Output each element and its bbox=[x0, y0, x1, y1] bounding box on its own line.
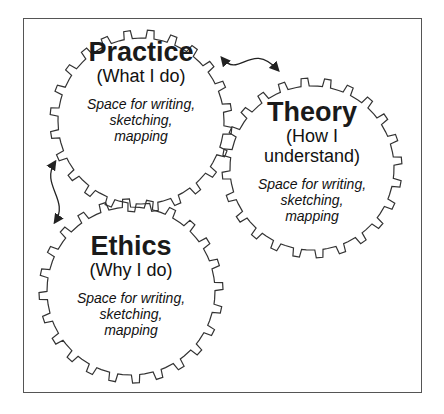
note-line: sketching, bbox=[87, 112, 195, 128]
subtitle-line: (Why I do) bbox=[77, 260, 185, 280]
note-line: sketching, bbox=[77, 306, 185, 322]
subtitle-line: (How I bbox=[258, 126, 366, 146]
gear-label-practice: Practice (What I do) Space for writing, … bbox=[87, 38, 195, 144]
gear-title: Theory bbox=[258, 98, 366, 126]
note-line: sketching, bbox=[258, 192, 366, 208]
gear-title: Practice bbox=[87, 38, 195, 66]
gear-subtitle: (Why I do) bbox=[77, 260, 185, 280]
gear-note: Space for writing, sketching, mapping bbox=[77, 290, 185, 338]
double-arrow-practice-ethics-icon bbox=[51, 162, 60, 222]
gear-title: Ethics bbox=[77, 232, 185, 260]
gear-note: Space for writing, sketching, mapping bbox=[87, 96, 195, 144]
gear-note: Space for writing, sketching, mapping bbox=[258, 176, 366, 224]
note-line: Space for writing, bbox=[258, 176, 366, 192]
gear-label-theory: Theory (How I understand) Space for writ… bbox=[258, 98, 366, 224]
subtitle-line: (What I do) bbox=[87, 66, 195, 86]
gear-subtitle: (What I do) bbox=[87, 66, 195, 86]
gears-diagram bbox=[0, 0, 444, 414]
note-line: Space for writing, bbox=[87, 96, 195, 112]
gear-label-ethics: Ethics (Why I do) Space for writing, ske… bbox=[77, 232, 185, 338]
note-line: mapping bbox=[87, 128, 195, 144]
double-arrow-practice-theory-icon bbox=[222, 58, 278, 70]
note-line: Space for writing, bbox=[77, 290, 185, 306]
note-line: mapping bbox=[258, 208, 366, 224]
note-line: mapping bbox=[77, 322, 185, 338]
subtitle-line: understand) bbox=[258, 146, 366, 166]
gear-subtitle: (How I understand) bbox=[258, 126, 366, 166]
